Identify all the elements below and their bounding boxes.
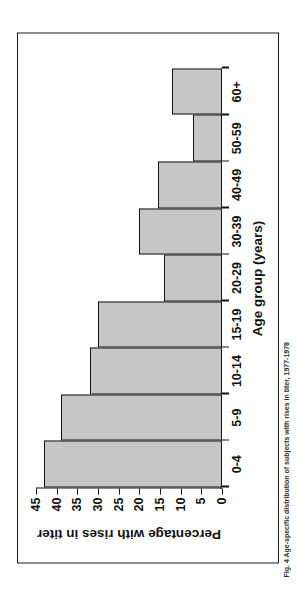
bar bbox=[158, 161, 222, 208]
category-axis-tick bbox=[222, 299, 229, 301]
value-axis-tick-label: 25 bbox=[112, 497, 125, 511]
bar-slot bbox=[36, 394, 222, 441]
category-axis-label: 30-39 bbox=[231, 215, 244, 247]
bar bbox=[61, 394, 222, 441]
value-axis-tick-label: 10 bbox=[174, 497, 187, 511]
value-axis-tick bbox=[160, 488, 161, 494]
bar-slot bbox=[36, 208, 222, 255]
bar bbox=[98, 301, 222, 348]
bar-slot bbox=[36, 347, 222, 394]
bar-slot bbox=[36, 68, 222, 115]
value-axis-tick bbox=[201, 488, 202, 494]
category-axis-tick bbox=[222, 253, 229, 255]
category-axis-tick bbox=[222, 66, 229, 68]
plot-area: 051015202530354045 0-45-910-1415-1920-29… bbox=[36, 68, 222, 488]
figure-caption: Fig. 4 Age-specific distribution of subj… bbox=[283, 12, 291, 577]
value-axis-tick bbox=[222, 488, 223, 494]
category-axis-label: 5-9 bbox=[231, 408, 244, 426]
bar bbox=[164, 254, 222, 301]
value-axis-tick bbox=[57, 488, 58, 494]
value-axis-tick bbox=[119, 488, 120, 494]
category-axis-label: 15-19 bbox=[231, 308, 244, 340]
value-axis-tick-label: 0 bbox=[216, 497, 229, 504]
category-axis-tick bbox=[222, 113, 229, 115]
bar bbox=[139, 208, 222, 255]
value-axis-tick bbox=[36, 488, 37, 494]
bar-slot bbox=[36, 254, 222, 301]
value-axis-tick-label: 35 bbox=[71, 497, 84, 511]
bar-slot bbox=[36, 301, 222, 348]
y-axis-title: Percentage with rises in titer bbox=[36, 526, 222, 542]
bar-slot bbox=[36, 161, 222, 208]
bar-slot bbox=[36, 115, 222, 162]
category-axis-label: 60+ bbox=[231, 81, 244, 102]
bar bbox=[44, 440, 222, 487]
category-axis-label: 50-59 bbox=[231, 122, 244, 154]
value-axis-tick bbox=[139, 488, 140, 494]
value-axis-tick-label: 20 bbox=[133, 497, 146, 511]
value-axis-tick-label: 30 bbox=[92, 497, 105, 511]
value-axis-tick bbox=[98, 488, 99, 494]
bar bbox=[90, 347, 222, 394]
category-axis-label: 10-14 bbox=[231, 355, 244, 387]
value-axis-tick-label: 45 bbox=[30, 497, 43, 511]
bar bbox=[193, 115, 222, 162]
bar-series bbox=[36, 68, 222, 487]
value-axis-tick-label: 40 bbox=[50, 497, 63, 511]
value-axis-tick bbox=[181, 488, 182, 494]
category-axis-label: 20-29 bbox=[231, 262, 244, 294]
category-axis-tick bbox=[222, 485, 229, 487]
value-axis-tick-label: 15 bbox=[154, 497, 167, 511]
category-axis-tick bbox=[222, 439, 229, 441]
bar bbox=[172, 68, 222, 115]
x-axis-title: Age group (years) bbox=[250, 68, 265, 488]
category-axis-tick bbox=[222, 160, 229, 162]
bar-slot bbox=[36, 440, 222, 487]
category-axis-label: 0-4 bbox=[231, 455, 244, 473]
chart-frame: Percentage with rises in titer 051015202… bbox=[17, 32, 279, 563]
figure-caption-text: Fig. 4 Age-specific distribution of subj… bbox=[283, 342, 290, 577]
value-axis-tick-label: 5 bbox=[195, 497, 208, 504]
category-axis-tick bbox=[222, 392, 229, 394]
category-axis-tick bbox=[222, 206, 229, 208]
rotated-figure-wrapper: Percentage with rises in titer 051015202… bbox=[11, 12, 291, 577]
value-axis-tick bbox=[77, 488, 78, 494]
figure-page: Percentage with rises in titer 051015202… bbox=[0, 0, 302, 589]
category-axis-tick bbox=[222, 346, 229, 348]
category-axis-label: 40-49 bbox=[231, 168, 244, 200]
